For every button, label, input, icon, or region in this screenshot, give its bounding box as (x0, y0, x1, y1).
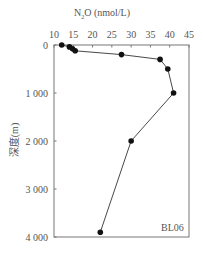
data-point-marker (72, 48, 78, 54)
data-point-marker (128, 138, 134, 144)
plot-area (0, 0, 204, 253)
data-point-marker (157, 57, 163, 63)
data-point-marker (59, 42, 65, 48)
data-point-marker (97, 229, 103, 235)
station-label: BL06 (161, 222, 184, 233)
series-line (62, 45, 174, 232)
data-point-marker (165, 66, 171, 72)
data-point-marker (171, 90, 177, 96)
data-point-marker (119, 52, 125, 58)
